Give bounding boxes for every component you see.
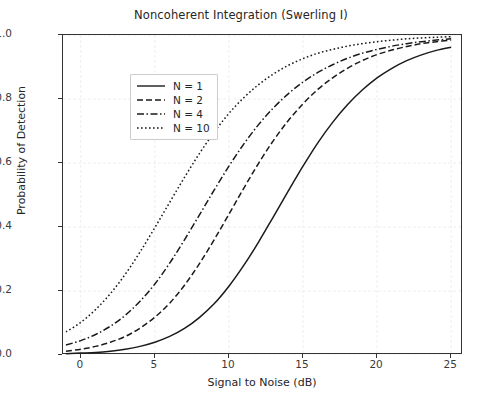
curve-n=2 (66, 40, 451, 351)
legend-line-swatch (136, 122, 166, 134)
y-tick-label: 0.2 (0, 283, 12, 295)
y-tick-label: 0.0 (0, 347, 12, 359)
x-tick-label: 20 (356, 358, 396, 370)
chart-title: Noncoherent Integration (Swerling I) (0, 8, 482, 22)
legend-line-swatch (136, 94, 166, 106)
legend-item[interactable]: N = 1 (136, 79, 210, 93)
y-tick-mark (58, 162, 62, 163)
curve-n=1 (66, 47, 451, 354)
legend-label: N = 2 (173, 94, 203, 106)
gridlines (63, 35, 463, 355)
y-tick-mark (58, 34, 62, 35)
y-tick-mark (58, 98, 62, 99)
y-axis-label: Probability of Detection (15, 0, 28, 311)
legend-item[interactable]: N = 10 (136, 121, 210, 135)
plot-canvas (63, 35, 463, 355)
legend-line-swatch (136, 108, 166, 120)
y-tick-label: 0.8 (0, 91, 12, 103)
y-tick-label: 0.6 (0, 155, 12, 167)
x-tick-label: 5 (134, 358, 174, 370)
legend-label: N = 10 (173, 122, 210, 134)
x-tick-label: 0 (60, 358, 100, 370)
data-curves (66, 37, 451, 354)
y-tick-label: 0.4 (0, 219, 12, 231)
x-tick-label: 15 (282, 358, 322, 370)
y-tick-label: 1.0 (0, 27, 12, 39)
legend-label: N = 1 (173, 80, 203, 92)
curve-n=10 (66, 37, 451, 332)
legend-item[interactable]: N = 4 (136, 107, 210, 121)
x-axis-label: Signal to Noise (dB) (62, 376, 462, 389)
y-tick-mark (58, 354, 62, 355)
chart-figure: Noncoherent Integration (Swerling I) Pro… (0, 0, 482, 400)
y-tick-mark (58, 290, 62, 291)
x-tick-label: 10 (208, 358, 248, 370)
legend: N = 1 N = 2 N = 4 N = 10 (130, 74, 218, 140)
legend-item[interactable]: N = 2 (136, 93, 210, 107)
plot-area: N = 1 N = 2 N = 4 N = 10 (62, 34, 462, 354)
x-tick-label: 25 (430, 358, 470, 370)
legend-line-swatch (136, 80, 166, 92)
y-tick-mark (58, 226, 62, 227)
legend-label: N = 4 (173, 108, 203, 120)
